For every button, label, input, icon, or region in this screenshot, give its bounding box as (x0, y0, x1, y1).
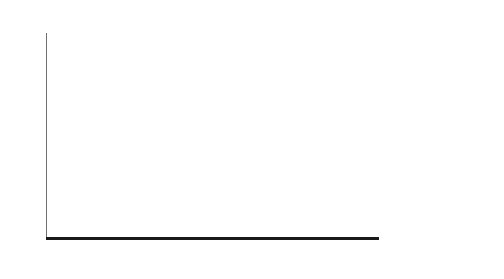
x-axis-line-shadow (46, 239, 379, 240)
chart-figure (0, 0, 504, 279)
stacked-area-plot (47, 34, 378, 238)
